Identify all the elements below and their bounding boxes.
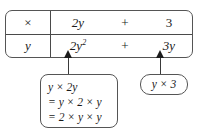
- arrow-stem: [68, 56, 69, 76]
- product1-cell: 2y2: [50, 34, 106, 57]
- callout-left-line-3: = 2 × y × y: [48, 110, 117, 125]
- arrow-head: [156, 50, 164, 58]
- header-term1-cell: 2y: [50, 11, 106, 34]
- callout-left-line-1: y × 2y: [48, 80, 117, 95]
- grid-header-row: × 2y + 3: [6, 11, 192, 34]
- callout-right-line-1: y × 3: [141, 75, 187, 94]
- multiply-symbol-cell: ×: [6, 11, 50, 34]
- header-term2-cell: 3: [144, 11, 194, 34]
- diagram-canvas: × 2y + 3 y 2y2 + 3y y × 2y = y × 2 × y =…: [0, 0, 199, 133]
- product1-exponent: 2: [82, 38, 86, 47]
- callout-left-line-2: = y × 2 × y: [48, 95, 117, 110]
- header-operator-cell: +: [106, 11, 144, 34]
- callout-right: y × 3: [140, 74, 188, 95]
- product-operator-cell: +: [106, 34, 144, 57]
- up-arrow-icon-left: [64, 50, 73, 76]
- callout-left: y × 2y = y × 2 × y = 2 × y × y: [40, 74, 118, 128]
- arrow-stem: [160, 56, 161, 76]
- arrow-head: [64, 50, 72, 58]
- row-multiplier-cell: y: [6, 34, 50, 57]
- product2-cell: 3y: [144, 34, 194, 57]
- up-arrow-icon-right: [156, 50, 165, 76]
